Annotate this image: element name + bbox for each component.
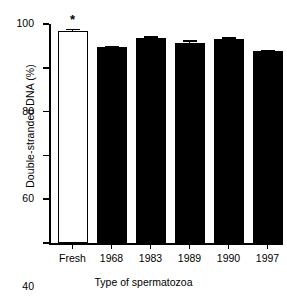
x-axis-tick-label-1997: 1997 xyxy=(256,252,279,264)
significance-star-fresh: * xyxy=(70,13,75,26)
x-axis-tick xyxy=(72,243,74,249)
x-axis-tick-label-1983: 1983 xyxy=(139,252,162,264)
x-axis-tick-label-1989: 1989 xyxy=(178,252,201,264)
error-bar-cap-1997 xyxy=(261,50,275,52)
y-axis-spine xyxy=(49,24,51,243)
bar-chart-figure: Double-stranded DNA (%) 020406080100 * F… xyxy=(0,0,287,300)
error-bar-cap-1983 xyxy=(144,36,158,38)
x-axis-spine xyxy=(49,243,283,245)
x-axis-tick-label-fresh: Fresh xyxy=(59,252,86,264)
x-axis-tick xyxy=(150,243,152,249)
y-axis-tick: 100 xyxy=(43,23,49,25)
error-bar-cap-1990 xyxy=(222,37,236,39)
x-axis-tick-label-1968: 1968 xyxy=(100,252,123,264)
y-axis-tick: 40 xyxy=(43,155,49,157)
y-axis-tick-label: 80 xyxy=(0,105,34,117)
y-axis-tick: 80 xyxy=(43,67,49,69)
x-axis-title: Type of spermatozoa xyxy=(0,276,287,288)
x-axis-tick xyxy=(111,243,113,249)
error-bar-cap-1989 xyxy=(183,40,197,42)
y-axis-tick: 60 xyxy=(43,111,49,113)
bar-1997 xyxy=(253,51,283,243)
x-axis-tick xyxy=(267,243,269,249)
x-axis-tick xyxy=(228,243,230,249)
bar-1989 xyxy=(175,43,205,243)
bar-1968 xyxy=(97,47,127,243)
y-axis-tick-label: 60 xyxy=(0,192,34,204)
plot-area: 020406080100 * Fresh19681983198919901997 xyxy=(49,24,283,243)
bar-fresh xyxy=(58,31,88,243)
y-axis-tick: 0 xyxy=(43,242,49,244)
bar-1990 xyxy=(214,39,244,243)
error-bar-cap-fresh xyxy=(66,29,80,31)
x-axis-tick xyxy=(189,243,191,249)
y-axis-tick: 20 xyxy=(43,198,49,200)
y-axis-tick-label: 100 xyxy=(0,17,34,29)
bar-1983 xyxy=(136,38,166,243)
x-axis-tick-label-1990: 1990 xyxy=(217,252,240,264)
error-bar-cap-1968 xyxy=(105,46,119,48)
